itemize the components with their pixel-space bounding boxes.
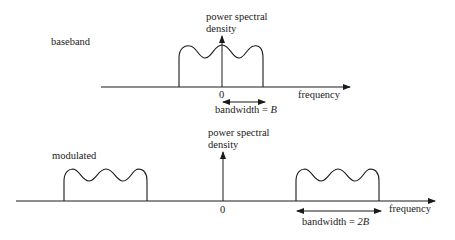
modulated-panel: modulated power spectral density 0 frequ… bbox=[16, 127, 435, 227]
baseband-panel: baseband power spectral density 0 freque… bbox=[51, 11, 350, 115]
baseband-y-axis-label-line2: density bbox=[206, 23, 237, 34]
baseband-x-axis-label: frequency bbox=[298, 89, 341, 100]
baseband-spectrum-curve bbox=[179, 45, 263, 87]
baseband-bandwidth-symbol: B bbox=[271, 104, 278, 115]
modulated-spectrum-positive bbox=[296, 169, 379, 201]
modulated-bandwidth-label: bandwidth = 2B bbox=[302, 216, 370, 227]
baseband-bandwidth-text: bandwidth = bbox=[215, 104, 271, 115]
modulated-spectrum-negative bbox=[64, 169, 147, 201]
baseband-origin-label: 0 bbox=[219, 89, 224, 100]
modulated-bandwidth-symbol: 2B bbox=[358, 216, 370, 227]
modulated-origin-label: 0 bbox=[220, 204, 225, 215]
modulated-y-axis-label-line1: power spectral bbox=[208, 127, 270, 138]
modulated-label: modulated bbox=[52, 150, 97, 161]
modulated-bandwidth-text: bandwidth = bbox=[302, 216, 358, 227]
baseband-bandwidth-label: bandwidth = B bbox=[215, 104, 278, 115]
baseband-y-axis-label-line1: power spectral bbox=[206, 11, 268, 22]
spectrum-diagram: baseband power spectral density 0 freque… bbox=[0, 0, 455, 240]
modulated-y-axis-label-line2: density bbox=[208, 139, 239, 150]
baseband-label: baseband bbox=[51, 36, 91, 47]
modulated-x-axis-label: frequency bbox=[389, 203, 432, 214]
